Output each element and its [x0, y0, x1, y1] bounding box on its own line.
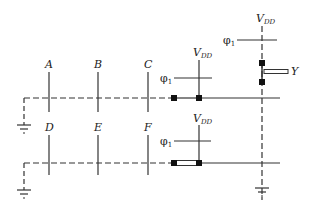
- label-e: E: [93, 121, 102, 134]
- ground-icon: [17, 125, 31, 133]
- output-y-wire: [264, 70, 288, 74]
- label-a: A: [44, 58, 53, 71]
- label-d: D: [44, 121, 54, 134]
- bottom-contact-link: [174, 161, 199, 166]
- contact-bottom-right: [196, 160, 202, 166]
- contact-top-left: [171, 95, 177, 101]
- ground-icon: [17, 190, 31, 198]
- contact-bottom-left: [171, 160, 177, 166]
- circuit-diagram: A B C D E F VDD VDD VDD φ1 φ1 φ1 Y: [0, 0, 312, 212]
- vdd-label-top-row: VDD: [193, 46, 213, 60]
- phi1-label-output: φ1: [223, 34, 235, 48]
- label-c: C: [144, 58, 153, 71]
- contact-top-right: [196, 95, 202, 101]
- vdd-label-output: VDD: [256, 12, 276, 26]
- phi1-label-top-row: φ1: [160, 72, 172, 86]
- label-f: F: [143, 121, 152, 134]
- output-label-y: Y: [291, 65, 300, 78]
- vdd-label-bottom-row: VDD: [193, 112, 213, 126]
- contact-output-bottom: [259, 79, 265, 85]
- phi1-label-bottom-row: φ1: [160, 135, 172, 149]
- label-b: B: [93, 58, 102, 71]
- contact-output-top: [259, 60, 265, 66]
